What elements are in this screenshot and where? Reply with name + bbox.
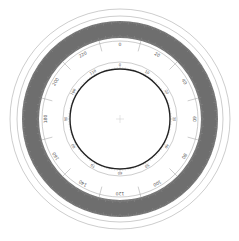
inner-scale-label: 0 — [119, 63, 122, 67]
outer-scale-label: 220 — [78, 50, 88, 59]
outer-scale-label: 180 — [43, 115, 48, 124]
outer-scale-label: 200 — [51, 77, 60, 87]
inner-scale-label: 90 — [64, 116, 68, 121]
outer-scale-label: 160 — [51, 151, 60, 161]
outer-scale-label: 120 — [116, 191, 125, 196]
outer-scale-label: 100 — [152, 179, 162, 188]
inner-scale-label: 30 — [172, 117, 176, 122]
outer-scale-label: 60 — [192, 116, 197, 122]
outer-scale-label: 0 — [119, 42, 122, 47]
circular-scale-dial: 020406080100120140160180200220 010203040… — [0, 0, 239, 241]
center-crosshair-icon — [116, 115, 124, 123]
inner-scale-label: 60 — [117, 171, 122, 175]
outer-scale-label: 140 — [78, 179, 88, 188]
